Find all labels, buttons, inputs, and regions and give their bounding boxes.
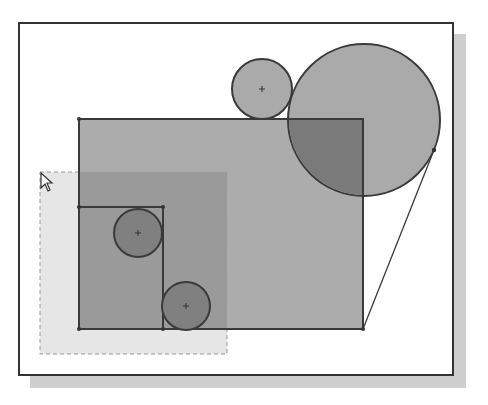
sketch-canvas[interactable]: [0, 0, 488, 405]
arrow-pointer-icon: [40, 172, 56, 194]
